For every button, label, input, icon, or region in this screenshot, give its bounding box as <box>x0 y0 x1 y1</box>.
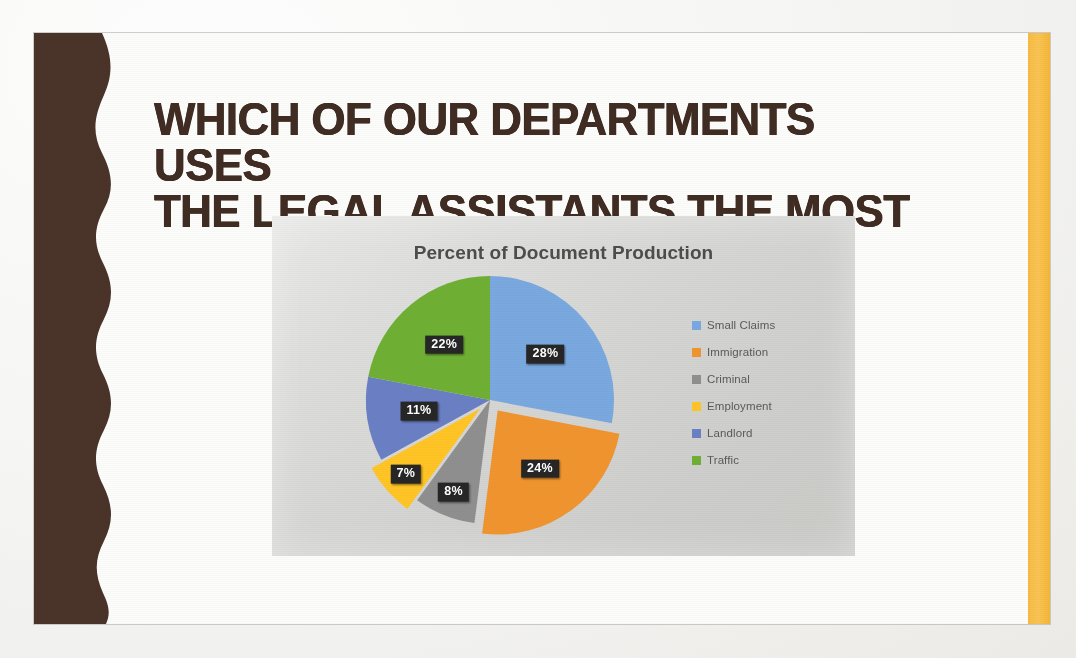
page-title: WHICH OF OUR DEPARTMENTS USES THE LEGAL … <box>154 96 926 233</box>
legend-label: Traffic <box>707 454 739 466</box>
legend-swatch-icon <box>692 348 701 357</box>
legend-item: Traffic <box>692 449 842 471</box>
pie-data-label: 11% <box>400 402 437 421</box>
chart-image: Percent of Document Production 28%24%8%7… <box>272 216 855 556</box>
legend-swatch-icon <box>692 429 701 438</box>
legend-item: Immigration <box>692 341 842 363</box>
pie-data-label: 24% <box>521 459 559 478</box>
legend-swatch-icon <box>692 321 701 330</box>
presentation-slide: WHICH OF OUR DEPARTMENTS USES THE LEGAL … <box>34 33 1050 624</box>
legend-label: Landlord <box>707 427 753 439</box>
legend-label: Employment <box>707 400 772 412</box>
legend-item: Employment <box>692 395 842 417</box>
chart-legend: Small ClaimsImmigrationCriminalEmploymen… <box>692 314 842 476</box>
legend-item: Small Claims <box>692 314 842 336</box>
pie-chart: 28%24%8%7%11%22% <box>294 266 674 536</box>
pie-data-label: 8% <box>438 483 468 502</box>
legend-item: Landlord <box>692 422 842 444</box>
right-accent-bar <box>1028 33 1050 624</box>
chart-title: Percent of Document Production <box>272 242 855 264</box>
legend-label: Criminal <box>707 373 750 385</box>
left-scallop-band <box>34 33 126 624</box>
legend-swatch-icon <box>692 456 701 465</box>
legend-item: Criminal <box>692 368 842 390</box>
pie-chart-svg <box>294 266 674 536</box>
pie-data-label: 7% <box>391 465 421 484</box>
pie-data-label: 28% <box>527 345 565 364</box>
legend-swatch-icon <box>692 375 701 384</box>
legend-swatch-icon <box>692 402 701 411</box>
legend-label: Small Claims <box>707 319 775 331</box>
scallop-shape-icon <box>34 33 126 624</box>
legend-label: Immigration <box>707 346 768 358</box>
pie-data-label: 22% <box>425 335 463 354</box>
